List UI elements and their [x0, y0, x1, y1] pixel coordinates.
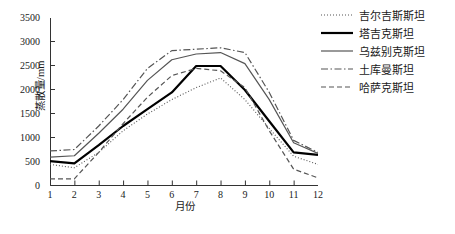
series-line-3 [50, 53, 318, 158]
legend-line-swatch-icon [320, 63, 354, 75]
y-tick-label: 1500 [6, 109, 40, 119]
legend: 吉尔吉斯斯坦塔吉克斯坦乌兹别克斯坦土库曼斯坦哈萨克斯坦 [320, 6, 452, 96]
legend-line-swatch-icon [320, 45, 354, 57]
legend-item-5[interactable]: 哈萨克斯坦 [320, 78, 452, 96]
y-tick-label: 500 [6, 157, 40, 167]
legend-line-swatch-icon [320, 27, 354, 39]
x-axis-title: 月份 [50, 198, 320, 213]
legend-item-label: 塔吉克斯坦 [359, 25, 414, 41]
series-line-1 [50, 78, 318, 168]
series-line-5 [50, 68, 318, 178]
legend-line-swatch-icon [320, 81, 354, 93]
legend-line-swatch-icon [320, 9, 354, 21]
legend-item-4[interactable]: 土库曼斯坦 [320, 60, 452, 78]
evapotranspiration-line-chart: 蒸散量/mm 0500100015002000250030003500 1234… [0, 0, 455, 234]
legend-item-label: 吉尔吉斯斯坦 [359, 7, 425, 23]
y-axis-tick-labels: 0500100015002000250030003500 [0, 0, 40, 194]
legend-item-2[interactable]: 塔吉克斯坦 [320, 24, 452, 42]
plot-area [50, 18, 318, 186]
series-line-4 [50, 48, 318, 153]
y-tick-label: 3500 [6, 13, 40, 23]
y-tick-label: 2000 [6, 85, 40, 95]
y-tick-label: 1000 [6, 133, 40, 143]
legend-item-1[interactable]: 吉尔吉斯斯坦 [320, 6, 452, 24]
series-canvas [50, 18, 318, 186]
legend-item-label: 土库曼斯坦 [359, 61, 414, 77]
legend-item-label: 哈萨克斯坦 [359, 79, 414, 95]
legend-item-3[interactable]: 乌兹别克斯坦 [320, 42, 452, 60]
y-tick-label: 3000 [6, 37, 40, 47]
legend-item-label: 乌兹别克斯坦 [359, 43, 425, 59]
y-tick-label: 2500 [6, 61, 40, 71]
